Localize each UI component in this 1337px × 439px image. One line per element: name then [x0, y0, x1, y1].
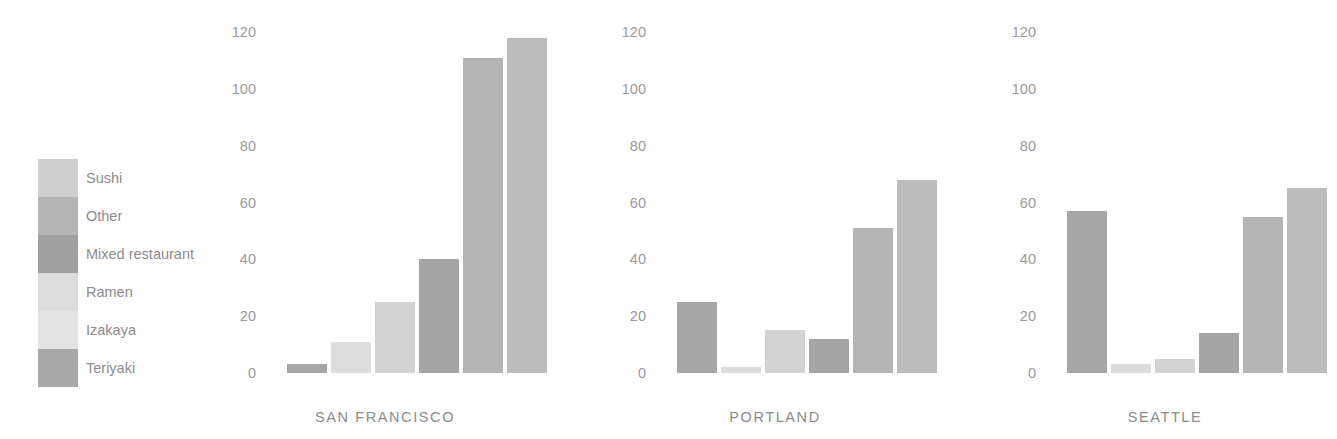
bar[interactable]: [331, 342, 371, 373]
plot-area: [677, 32, 937, 373]
y-axis-tick-label: 60: [600, 195, 646, 211]
bar[interactable]: [463, 58, 503, 373]
y-axis-tick-label: 40: [210, 251, 256, 267]
bar[interactable]: [507, 38, 547, 373]
y-axis-tick-label: 80: [210, 138, 256, 154]
y-axis-tick-label: 120: [990, 24, 1036, 40]
y-axis-tick-label: 40: [990, 251, 1036, 267]
chart-legend: SushiOtherMixed restaurantRamenIzakayaTe…: [38, 159, 228, 387]
bar[interactable]: [1287, 188, 1327, 373]
plot-area: [287, 32, 547, 373]
y-axis-tick-label: 0: [600, 365, 646, 381]
bar[interactable]: [853, 228, 893, 373]
bar[interactable]: [721, 367, 761, 373]
bar[interactable]: [765, 330, 805, 373]
legend-swatch: [38, 159, 78, 197]
y-axis-tick-label: 20: [210, 308, 256, 324]
bar[interactable]: [677, 302, 717, 373]
y-axis-tick-label: 120: [210, 24, 256, 40]
y-axis-tick-label: 100: [210, 81, 256, 97]
bar[interactable]: [1067, 211, 1107, 373]
chart-panel: 020406080100120PORTLAND: [600, 0, 950, 439]
legend-swatch: [38, 273, 78, 311]
bar[interactable]: [1243, 217, 1283, 373]
y-axis-tick-label: 100: [990, 81, 1036, 97]
y-axis-tick-label: 40: [600, 251, 646, 267]
legend-swatch: [38, 197, 78, 235]
panel-title: PORTLAND: [600, 409, 950, 425]
y-axis: 020406080100120: [990, 0, 1036, 439]
bar[interactable]: [287, 364, 327, 373]
panel-title: SAN FRANCISCO: [210, 409, 560, 425]
chart-figure: SushiOtherMixed restaurantRamenIzakayaTe…: [0, 0, 1337, 439]
y-axis-tick-label: 20: [600, 308, 646, 324]
y-axis: 020406080100120: [600, 0, 646, 439]
bar[interactable]: [1155, 359, 1195, 373]
bar[interactable]: [809, 339, 849, 373]
y-axis: 020406080100120: [210, 0, 256, 439]
panel-title: SEATTLE: [990, 409, 1337, 425]
chart-panel: 020406080100120SAN FRANCISCO: [210, 0, 560, 439]
y-axis-tick-label: 80: [990, 138, 1036, 154]
chart-panel: 020406080100120SEATTLE: [990, 0, 1337, 439]
bar[interactable]: [1199, 333, 1239, 373]
y-axis-tick-label: 0: [210, 365, 256, 381]
y-axis-tick-label: 60: [990, 195, 1036, 211]
legend-swatch: [38, 235, 78, 273]
legend-swatch: [38, 349, 78, 387]
y-axis-tick-label: 120: [600, 24, 646, 40]
y-axis-tick-label: 100: [600, 81, 646, 97]
plot-area: [1067, 32, 1327, 373]
y-axis-tick-label: 20: [990, 308, 1036, 324]
bar[interactable]: [897, 180, 937, 373]
legend-swatch: [38, 311, 78, 349]
y-axis-tick-label: 60: [210, 195, 256, 211]
legend-swatch-column: [38, 159, 78, 387]
bar[interactable]: [375, 302, 415, 373]
bar[interactable]: [1111, 364, 1151, 373]
y-axis-tick-label: 80: [600, 138, 646, 154]
y-axis-tick-label: 0: [990, 365, 1036, 381]
bar[interactable]: [419, 259, 459, 373]
